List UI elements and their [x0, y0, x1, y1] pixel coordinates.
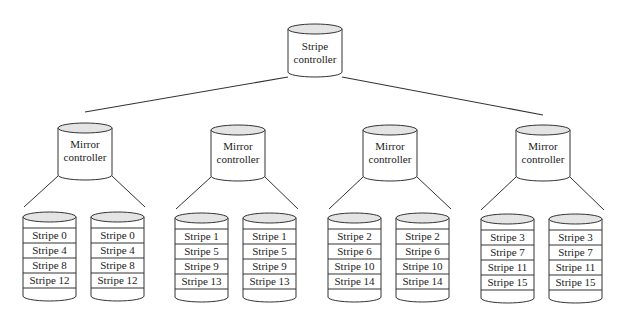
disk-1b-stripe-2: Stripe 4: [100, 244, 135, 256]
disk-4a-stripe-4: Stripe 15: [487, 276, 528, 288]
disk-1b: Stripe 0 Stripe 4 Stripe 8 Stripe 12: [91, 212, 144, 301]
disk-3b-stripe-2: Stripe 6: [405, 245, 440, 257]
disk-2a-stripe-1: Stripe 1: [184, 230, 219, 242]
mirror-controller-2: Mirror controller: [211, 125, 265, 181]
connector-mirror-2-disk-a: [176, 177, 211, 209]
mirror-controller-3: Mirror controller: [363, 125, 417, 181]
connector-root-to-mirror-4: [342, 77, 543, 115]
root-connectors: [85, 77, 543, 115]
disk-4b-stripe-4: Stripe 15: [555, 276, 596, 288]
stripe-controller-label-1: Stripe: [302, 40, 328, 52]
disk-1a-stripe-1: Stripe 0: [32, 229, 67, 241]
mirror-controller-4-label-1: Mirror: [528, 140, 558, 152]
disk-1b-stripe-3: Stripe 8: [100, 259, 135, 271]
disk-4a-stripe-3: Stripe 11: [488, 261, 528, 273]
mirror-controller-2-label-1: Mirror: [223, 140, 253, 152]
mirror-controller-3-label-2: controller: [369, 153, 412, 165]
disk-4b: Stripe 3 Stripe 7 Stripe 11 Stripe 15: [549, 214, 602, 303]
disk-2b: Stripe 1 Stripe 5 Stripe 9 Stripe 13: [243, 213, 296, 302]
disk-3b: Stripe 2 Stripe 6 Stripe 10 Stripe 14: [396, 213, 449, 302]
disk-4b-stripe-2: Stripe 7: [558, 246, 593, 258]
connector-mirror-4-disk-b: [570, 177, 604, 210]
disk-3a-stripe-2: Stripe 6: [337, 245, 372, 257]
disk-2b-stripe-1: Stripe 1: [252, 230, 287, 242]
disk-1b-stripe-1: Stripe 0: [100, 229, 135, 241]
disk-2b-stripe-2: Stripe 5: [252, 245, 287, 257]
mirror-controller-2-label-2: controller: [217, 153, 260, 165]
mirror-controller-1-label-2: controller: [64, 151, 107, 163]
disk-3a: Stripe 2 Stripe 6 Stripe 10 Stripe 14: [328, 213, 381, 302]
mirror-group-4: Mirror controller Stripe 3 Stripe 7 Stri…: [481, 125, 604, 303]
disk-4a-stripe-2: Stripe 7: [490, 246, 525, 258]
disk-4b-stripe-3: Stripe 11: [556, 261, 596, 273]
disk-3a-stripe-1: Stripe 2: [337, 230, 372, 242]
connector-mirror-1-disk-b: [112, 176, 145, 207]
connector-mirror-3-disk-a: [329, 177, 363, 209]
disk-1a-stripe-2: Stripe 4: [32, 244, 67, 256]
connector-mirror-4-disk-a: [481, 177, 516, 210]
disk-3a-stripe-3: Stripe 10: [334, 260, 375, 272]
disk-3b-stripe-3: Stripe 10: [402, 260, 443, 272]
disk-2a: Stripe 1 Stripe 5 Stripe 9 Stripe 13: [175, 213, 228, 302]
disk-2a-stripe-2: Stripe 5: [184, 245, 219, 257]
disk-1a-stripe-4: Stripe 12: [29, 274, 69, 286]
mirror-controller-4: Mirror controller: [516, 125, 570, 181]
disk-2a-stripe-4: Stripe 13: [181, 275, 222, 287]
disk-4a: Stripe 3 Stripe 7 Stripe 11 Stripe 15: [481, 214, 534, 303]
mirror-controller-1-label-1: Mirror: [70, 138, 100, 150]
connector-mirror-1-disk-a: [24, 176, 58, 207]
connector-root-to-mirror-1: [85, 77, 288, 112]
stripe-controller: Stripe controller: [288, 24, 342, 77]
disk-3a-stripe-4: Stripe 14: [334, 275, 375, 287]
connector-mirror-2-disk-b: [265, 177, 298, 209]
mirror-group-3: Mirror controller Stripe 2 Stripe 6 Stri…: [328, 125, 451, 302]
mirror-controller-1: Mirror controller: [58, 123, 112, 180]
disk-1b-stripe-4: Stripe 12: [97, 274, 137, 286]
stripe-controller-top: [288, 24, 342, 34]
mirror-controller-3-label-1: Mirror: [375, 140, 405, 152]
mirror-controller-4-label-2: controller: [522, 153, 565, 165]
disk-2b-stripe-4: Stripe 13: [249, 275, 290, 287]
disk-2a-stripe-3: Stripe 9: [184, 260, 219, 272]
disk-3b-stripe-4: Stripe 14: [402, 275, 443, 287]
stripe-controller-label-2: controller: [294, 53, 337, 65]
connector-mirror-3-disk-b: [417, 177, 451, 209]
disk-4b-stripe-1: Stripe 3: [558, 231, 593, 243]
disk-2b-stripe-3: Stripe 9: [252, 260, 287, 272]
disk-1a-stripe-3: Stripe 8: [32, 259, 67, 271]
disk-3b-stripe-1: Stripe 2: [405, 230, 440, 242]
disk-1a: Stripe 0 Stripe 4 Stripe 8 Stripe 12: [23, 212, 76, 301]
disk-4a-stripe-1: Stripe 3: [490, 231, 525, 243]
mirror-group-2: Mirror controller Stripe 1 Stripe 5 Stri…: [175, 125, 298, 302]
raid10-diagram: Stripe controller Mirror controller Stri…: [0, 0, 627, 319]
mirror-group-1: Mirror controller Stripe 0 Stripe 4 Stri…: [23, 123, 145, 301]
